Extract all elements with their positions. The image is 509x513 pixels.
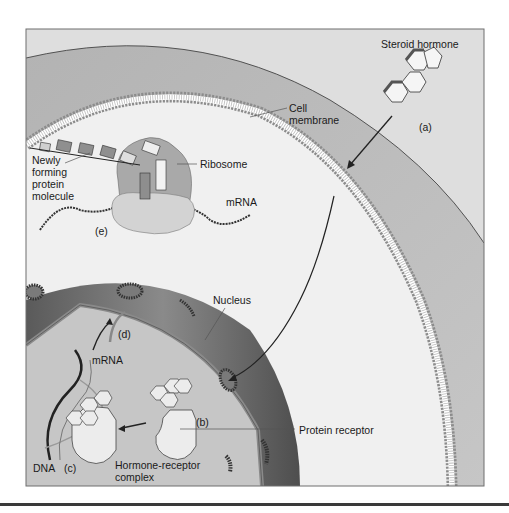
label-protein-4: molecule: [32, 190, 74, 202]
label-step-b: (b): [196, 416, 209, 428]
label-protein-3: protein: [32, 178, 64, 190]
label-complex-1: Hormone-receptor: [115, 459, 200, 471]
bottom-rule: [0, 503, 509, 506]
label-step-e: (e): [95, 225, 108, 237]
label-cell-membrane-1: Cell: [289, 102, 307, 114]
label-cell-membrane-2: membrane: [289, 114, 339, 126]
label-dna: DNA: [33, 462, 55, 474]
label-step-d: (d): [118, 328, 131, 340]
label-ribosome: Ribosome: [200, 158, 247, 170]
nuclear-pore: [25, 285, 43, 299]
label-mrna-cytoplasm: mRNA: [226, 196, 257, 208]
label-nucleus: Nucleus: [213, 294, 251, 306]
label-protein-2: forming: [32, 166, 67, 178]
label-steroid-hormone: Steroid hormone: [381, 38, 459, 50]
label-protein-receptor: Protein receptor: [299, 424, 374, 436]
label-protein-1: Newly: [32, 154, 61, 166]
label-step-a: (a): [419, 121, 432, 133]
steroid-hormone-diagram: Steroid hormone (a) Cell membrane Riboso…: [0, 0, 509, 513]
nuclear-pore: [118, 284, 142, 298]
label-mrna-nucleus: mRNA: [92, 354, 123, 366]
label-complex-2: complex: [115, 471, 154, 483]
diagram-canvas: [0, 0, 509, 513]
label-step-c: (c): [64, 462, 76, 474]
